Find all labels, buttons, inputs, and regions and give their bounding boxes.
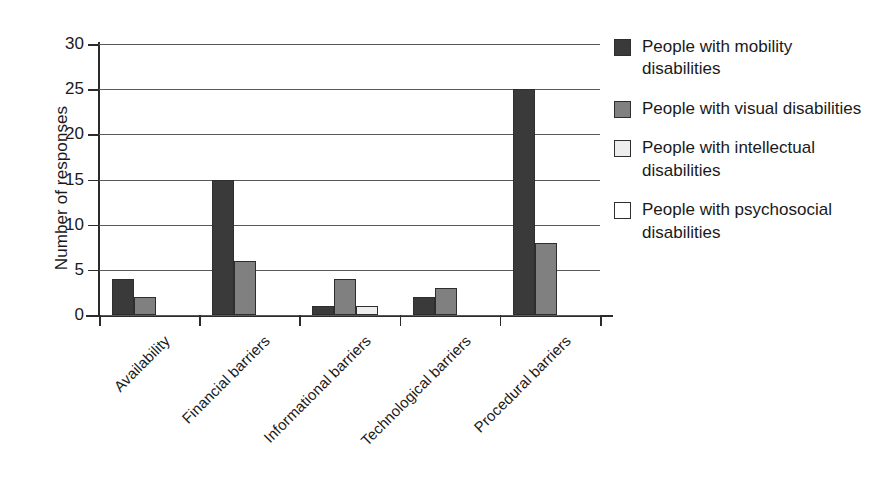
x-axis-label: Informational barriers <box>260 332 374 446</box>
x-axis-label: Technological barriers <box>357 332 474 449</box>
bar <box>513 89 535 315</box>
y-tick-label: 0 <box>75 305 84 325</box>
y-tick-mark <box>88 270 99 272</box>
y-tick-label: 5 <box>75 260 84 280</box>
legend-item[interactable]: People with mobility disabilities <box>614 36 889 81</box>
bar <box>356 306 378 315</box>
x-tick-mark <box>500 315 502 326</box>
x-tick-mark <box>400 315 402 326</box>
legend-item[interactable]: People with intellectual disabilities <box>614 137 889 182</box>
bar <box>312 306 334 315</box>
legend-swatch-icon <box>614 202 631 219</box>
legend-label: People with intellectual disabilities <box>642 137 874 182</box>
bar <box>112 279 134 315</box>
x-axis-label: Procedural barriers <box>470 332 574 436</box>
bar <box>212 180 234 316</box>
y-tick-label: 10 <box>65 215 84 235</box>
plot-area: 051015202530 <box>99 44 600 315</box>
y-tick-mark <box>88 180 99 182</box>
chart-legend: People with mobility disabilitiesPeople … <box>614 36 889 261</box>
x-axis-label: Availability <box>110 332 173 395</box>
bar <box>435 288 457 315</box>
bar <box>134 297 156 315</box>
bar <box>413 297 435 315</box>
legend-swatch-icon <box>614 101 631 118</box>
y-tick-label: 30 <box>65 34 84 54</box>
y-tick-mark <box>88 134 99 136</box>
bar-chart: Number of responses 051015202530 People … <box>0 0 889 504</box>
gridline <box>99 315 600 316</box>
y-tick-mark <box>88 225 99 227</box>
gridline <box>99 44 600 45</box>
legend-swatch-icon <box>614 140 631 157</box>
bar <box>234 261 256 315</box>
y-tick-mark <box>88 315 99 317</box>
y-tick-label: 20 <box>65 124 84 144</box>
legend-item[interactable]: People with visual disabilities <box>614 98 889 120</box>
bar <box>535 243 557 315</box>
y-tick-label: 15 <box>65 170 84 190</box>
legend-item[interactable]: People with psychosocial disabilities <box>614 199 889 244</box>
x-tick-mark <box>299 315 301 326</box>
bar <box>334 279 356 315</box>
legend-label: People with mobility disabilities <box>642 36 874 81</box>
legend-label: People with visual disabilities <box>642 98 861 120</box>
y-tick-mark <box>88 89 99 91</box>
x-tick-mark <box>600 315 602 326</box>
x-tick-mark <box>199 315 201 326</box>
x-axis-label: Financial barriers <box>179 332 274 427</box>
legend-label: People with psychosocial disabilities <box>642 199 874 244</box>
legend-swatch-icon <box>614 39 631 56</box>
y-tick-label: 25 <box>65 79 84 99</box>
x-tick-mark <box>99 315 101 326</box>
y-tick-mark <box>88 44 99 46</box>
